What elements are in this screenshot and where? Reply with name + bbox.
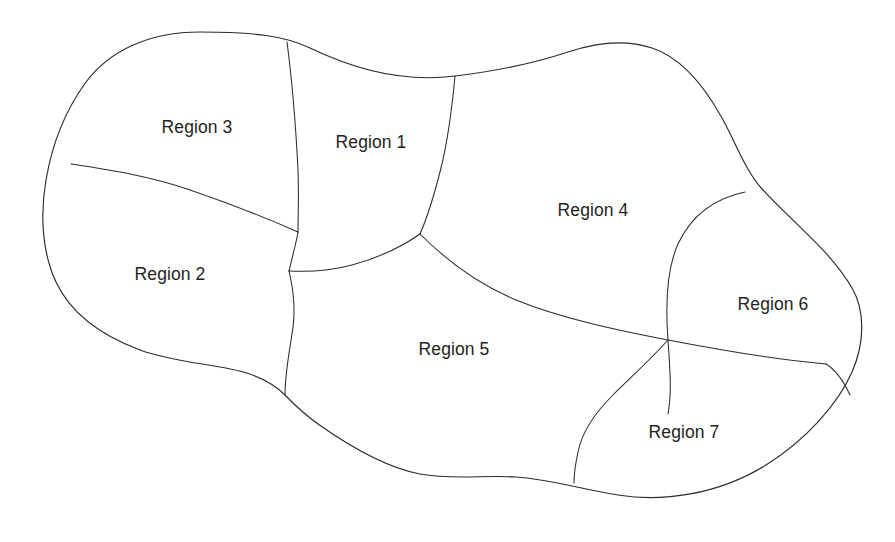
region-7-label: Region 7	[649, 422, 720, 442]
region-3-label: Region 3	[162, 117, 233, 137]
region-map-diagram: Region 1 Region 2 Region 3 Region 4 Regi…	[0, 0, 895, 542]
region-6-label: Region 6	[738, 294, 809, 314]
map-canvas: Region 1 Region 2 Region 3 Region 4 Regi…	[0, 0, 895, 542]
region-2-label: Region 2	[135, 264, 206, 284]
region-5-label: Region 5	[419, 339, 490, 359]
region-4-label: Region 4	[558, 200, 629, 220]
region-1-label: Region 1	[336, 132, 407, 152]
